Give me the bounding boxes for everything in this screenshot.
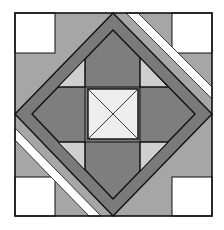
quilt-block	[0, 0, 224, 230]
corner-square-top-right	[172, 13, 212, 53]
corner-square-top-left	[15, 13, 55, 53]
corner-square-bottom-right	[172, 177, 212, 216]
corner-square-bottom-left	[15, 177, 55, 216]
